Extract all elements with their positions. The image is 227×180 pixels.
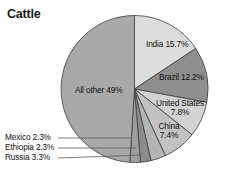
callout-label-russia: Russia 3.3%	[5, 153, 50, 162]
slice-label-united-states: United States 7.8%	[152, 99, 208, 118]
slice-label-china: China 7.4%	[152, 122, 186, 141]
slice-label-brazil: Brazil 12.2%	[159, 73, 204, 82]
callout-label-ethiopia: Ethiopia 2.3%	[5, 143, 54, 152]
slice-label-india: India 15.7%	[146, 40, 188, 49]
pie-chart-figure: Cattle India 15.7%Brazil 12.2%United Sta…	[0, 0, 227, 180]
slice-label-all-other: All other 49%	[75, 86, 122, 95]
slice-label-united-states-line2: 7.8%	[171, 107, 189, 117]
callout-label-mexico: Mexico 2.3%	[5, 133, 51, 142]
slice-label-china-line2: 7.4%	[160, 130, 178, 140]
